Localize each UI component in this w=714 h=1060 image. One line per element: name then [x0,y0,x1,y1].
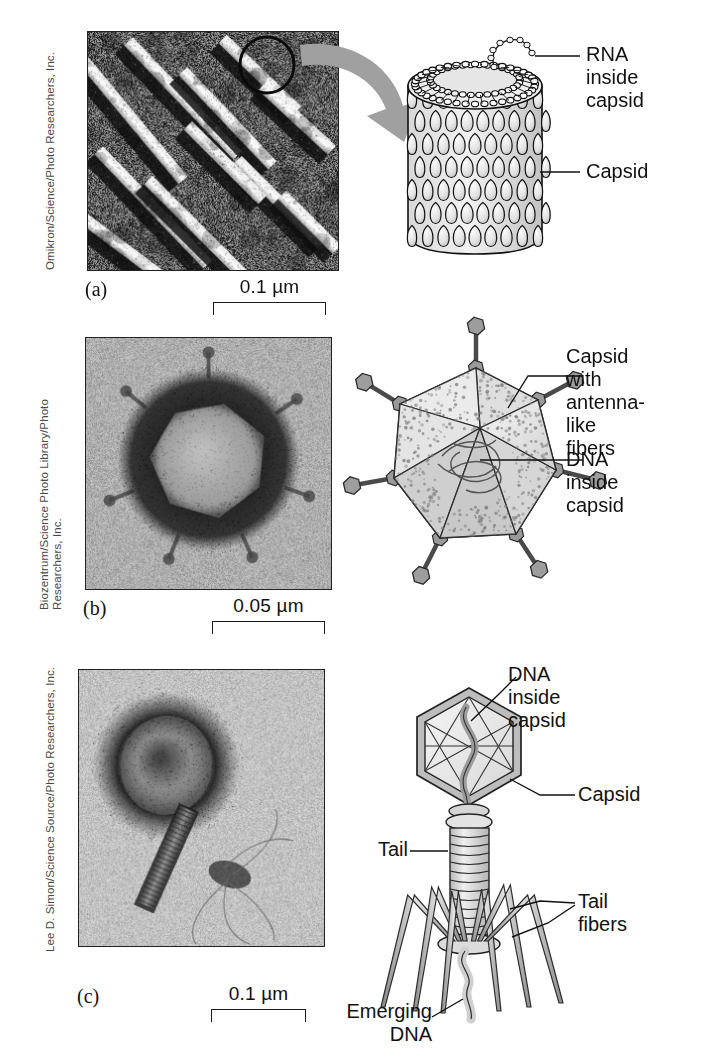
rna-bead [488,55,494,61]
label-line: RNA [586,43,628,65]
rna-bead [491,64,497,70]
scale-bar-bracket [213,302,326,315]
rna-bead [452,91,459,96]
fiber-knob [413,567,430,585]
rna-bead [476,92,483,97]
panel-letter-a: (a) [85,278,107,301]
helical-virus-diagram [390,20,580,270]
credit-line: Researchers, Inc. [51,320,64,610]
label-emerging-dna: Emerging DNA [310,1000,432,1046]
label-tail: Tail [330,838,408,861]
rna-bead [507,97,514,103]
photo-credit-c: Lee D. Simon/Science Source/Photo Resear… [44,652,57,952]
label-line: Tail [578,890,608,912]
label-tail-fibers: Tail fibers [578,890,627,936]
scale-bar-c: 0.1 µm [211,983,306,1022]
label-line: DNA inside [566,448,618,493]
label-capsid-a: Capsid [586,160,648,183]
fiber-knob [467,317,484,335]
label-capsid-with-fibers: Capsid with antenna-like fibers [566,345,645,460]
leader-line-capsid-c [510,779,575,795]
label-dna-inside-capsid-b: DNA inside capsid [566,448,624,517]
rna-bead [484,92,491,97]
adenovirus-diagram [368,338,583,588]
bacteriophage-micrograph [78,669,325,947]
capsomere [407,226,416,247]
rna-bead [529,50,535,56]
capsomere [533,226,542,247]
scale-bar-bracket [212,621,325,634]
rna-bead [467,92,474,97]
capsomere [542,203,551,224]
rna-bead [517,37,523,43]
rna-bead [499,99,506,105]
virus-structure-figure: Omikron/Science/Photo Researchers, Inc. … [0,0,714,1060]
scale-bar-label: 0.1 µm [213,276,326,298]
label-line: Tail [378,838,408,860]
label-capsid-c: Capsid [578,783,640,806]
capsomere [542,111,551,132]
label-line: fibers [578,913,627,935]
label-line: capsid [586,89,644,111]
rna-bead [459,92,466,97]
rna-bead [471,61,478,67]
scale-bar-a: 0.1 µm [213,276,326,315]
label-line: Emerging [346,1000,432,1022]
rna-bead [492,91,499,96]
tobacco-mosaic-virus-micrograph [87,31,339,271]
capsomere [533,180,542,201]
scale-bar-label: 0.1 µm [211,983,306,1005]
adenovirus-micrograph [85,337,332,590]
photo-credit-a: Omikron/Science/Photo Researchers, Inc. [44,10,57,270]
rna-bead [497,40,503,46]
label-line: Capsid [586,160,648,182]
label-line: Capsid [578,783,640,805]
rna-bead [490,47,496,53]
fiber-knob [343,477,360,495]
panel-letter-b: (b) [83,597,106,620]
rna-bead [471,101,478,107]
label-dna-inside-capsid-c: DNA inside capsid [508,663,566,732]
label-line: DNA inside [508,663,560,708]
rna-bead [499,63,506,69]
rna-bead [490,100,497,106]
rna-bead [453,100,460,106]
scale-bar-bracket [211,1009,306,1022]
credit-line: Biozentrum/Science Photo Library/Photo [38,320,51,610]
label-line: antenna-like [566,391,645,436]
label-line: capsid [566,494,624,516]
credit-line: Omikron/Science/Photo Researchers, Inc. [44,10,57,270]
scale-bar-b: 0.05 µm [212,595,325,634]
leader-line-emerging-dna [432,999,463,1017]
credit-line: Lee D. Simon/Science Source/Photo Resear… [44,652,57,952]
rna-bead [429,67,436,73]
capsomere [533,134,542,155]
rna-bead [444,99,451,105]
label-line: inside [586,66,638,88]
panel-letter-c: (c) [77,985,99,1008]
label-line: capsid [508,709,566,731]
capsomere [407,134,416,155]
scale-bar-label: 0.05 µm [212,595,325,617]
rna-bead [507,37,513,43]
label-rna-inside-capsid: RNA inside capsid [586,43,644,112]
label-line: Capsid with [566,345,628,390]
capsomere [407,180,416,201]
photo-credit-b: Biozentrum/Science Photo Library/Photo R… [38,320,64,610]
rna-bead [444,63,451,69]
rna-bead [524,42,530,48]
bacteriophage-diagram [370,655,630,1050]
label-line: DNA [390,1023,432,1045]
rna-bead [436,97,443,103]
capsomere [542,157,551,178]
